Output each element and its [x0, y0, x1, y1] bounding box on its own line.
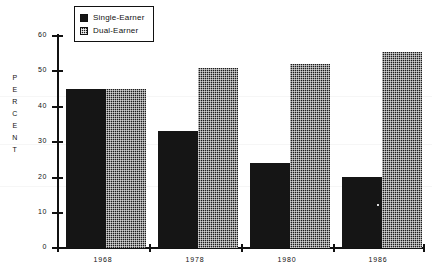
x-axis-tick-label-1986: 1986 — [348, 255, 408, 264]
bar-single-earner-1978 — [158, 131, 198, 248]
x-axis-tick — [149, 244, 151, 252]
y-axis-tick-label: 60 — [38, 30, 47, 39]
bar-single-earner-1980 — [250, 163, 290, 248]
bar-dual-earner-1978 — [198, 68, 238, 248]
legend-item-single-earner: Single-Earner — [80, 11, 145, 24]
y-axis-tick-label: 30 — [38, 136, 47, 145]
y-axis-title-letter: E — [8, 84, 22, 96]
legend-label-single-earner: Single-Earner — [93, 13, 145, 22]
y-axis-title-letter: P — [8, 72, 22, 84]
y-axis-title-letter: C — [8, 108, 22, 120]
legend-label-dual-earner: Dual-Earner — [93, 26, 138, 35]
bar-single-earner-1968 — [66, 89, 106, 248]
y-axis-title: P E R C E N T — [8, 72, 22, 156]
x-axis-tick-label-1978: 1978 — [165, 255, 225, 264]
y-axis-tick-label: 20 — [38, 172, 47, 181]
x-axis-tick — [57, 244, 59, 252]
x-axis-tick-label-1968: 1968 — [73, 255, 133, 264]
x-axis-tick-label-1980: 1980 — [257, 255, 317, 264]
legend-item-dual-earner: Dual-Earner — [80, 24, 145, 37]
x-axis-tick — [333, 244, 335, 252]
scan-artifact — [377, 204, 379, 206]
legend-swatch-dotted-icon — [80, 27, 88, 35]
chart-legend: Single-Earner Dual-Earner — [74, 6, 154, 42]
bar-dual-earner-1968 — [106, 89, 146, 248]
y-axis-tick-label: 50 — [38, 65, 47, 74]
x-axis-tick — [241, 244, 243, 252]
bars-layer — [58, 26, 424, 248]
bar-single-earner-1986 — [342, 177, 382, 248]
bar-chart: P E R C E N T 60 50 40 30 20 10 0 — [0, 0, 432, 271]
y-axis-tick-label: 10 — [38, 207, 47, 216]
y-axis-title-letter: E — [8, 120, 22, 132]
legend-swatch-solid-icon — [80, 14, 88, 22]
y-axis-title-letter: N — [8, 132, 22, 144]
y-axis-tick-label: 0 — [43, 242, 48, 251]
bar-dual-earner-1980 — [290, 64, 330, 248]
y-axis-tick-label: 40 — [38, 101, 47, 110]
bar-dual-earner-1986 — [382, 52, 422, 248]
y-axis-title-letter: T — [8, 144, 22, 156]
y-axis-title-letter: R — [8, 96, 22, 108]
x-axis-tick — [423, 244, 425, 252]
